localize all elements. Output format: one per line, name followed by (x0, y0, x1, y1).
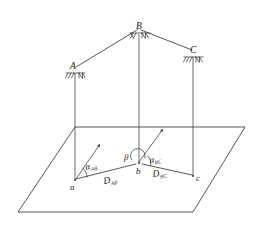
azimuth-bc-subscript: BC (154, 158, 162, 165)
ground-plane (18, 127, 245, 212)
azimuth-label-bc: αBC (149, 153, 163, 166)
svg-text:DAB: DAB (102, 174, 119, 188)
distance-bc-subscript: BC (159, 172, 167, 179)
station-label-B: B (136, 21, 142, 31)
svg-text:αBC: αBC (149, 153, 163, 166)
svg-text:αAB: αAB (84, 160, 98, 173)
ground-point-label-c: c (196, 173, 200, 183)
survey-traverse-diagram: A B C (0, 0, 261, 231)
figure-canvas: A B C (0, 0, 261, 231)
ground-point-label-a: a (70, 182, 75, 192)
vertical-projection-lines (75, 34, 193, 180)
distance-label-ab: DAB (102, 174, 119, 188)
azimuth-label-ab: αAB (84, 160, 98, 173)
survey-tripod-icon-b (130, 33, 150, 38)
angle-beta-arc (131, 149, 145, 161)
distance-ab-subscript: AB (109, 179, 118, 186)
upper-traverse-lines (76, 30, 192, 67)
ground-point-label-b: b (136, 166, 141, 176)
azimuth-ab-subscript: AB (89, 165, 98, 173)
angle-beta-label: β (123, 152, 129, 162)
station-label-C: C (190, 45, 197, 55)
station-label-A: A (69, 61, 76, 71)
